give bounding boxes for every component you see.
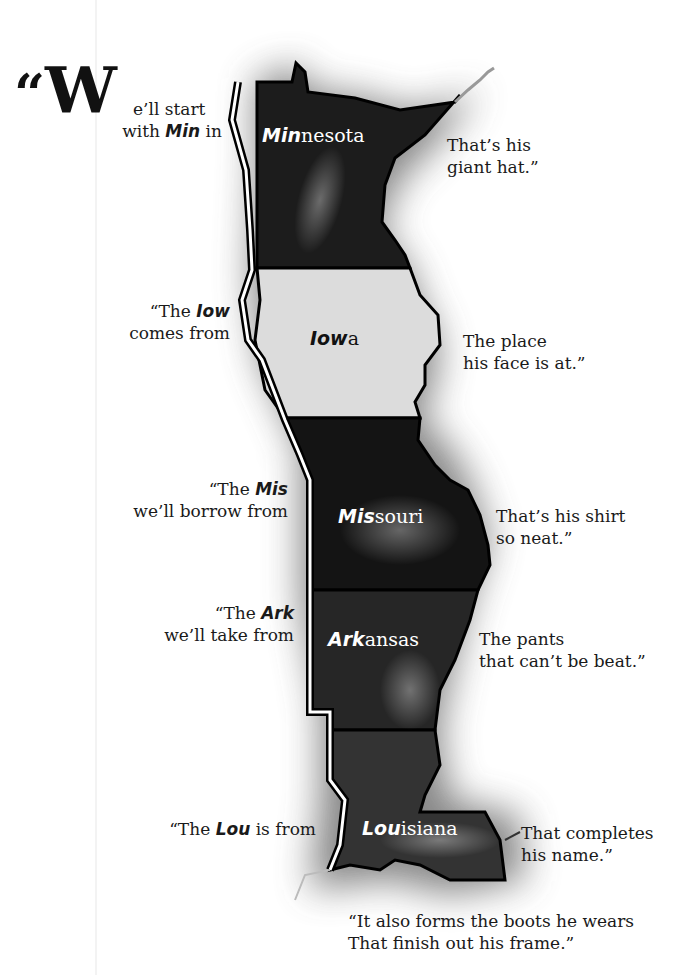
right-verse-arkansas: The pantsthat can’t be beat.” xyxy=(479,628,646,672)
intro-line-2: with Min in xyxy=(100,120,222,142)
left-verse-louisiana: “The Lou is from xyxy=(100,818,316,840)
right-verse-minnesota: That’s hisgiant hat.” xyxy=(447,134,539,178)
left-verse-iowa: “The Iow comes from xyxy=(100,300,230,344)
label-iowa: Iowa xyxy=(310,327,359,349)
open-quote: “ xyxy=(14,62,45,126)
label-arkansas: Arkansas xyxy=(328,628,419,650)
intro-line-1: e’ll start xyxy=(133,98,205,120)
label-louisiana: Louisiana xyxy=(362,817,457,839)
left-verse-missouri: “The Mis we’ll borrow from xyxy=(100,478,288,522)
drop-cap-letter: W xyxy=(45,53,117,128)
right-verse-missouri: That’s his shirtso neat.” xyxy=(496,505,625,549)
intro-bold-min: Min xyxy=(165,121,200,141)
right-verse-louisiana: That completeshis name.” xyxy=(521,822,654,866)
state-louisiana-shape xyxy=(330,730,505,880)
closing-verse: “It also forms the boots he wearsThat fi… xyxy=(348,910,634,954)
lake-edge xyxy=(455,68,494,102)
state-minnesota-shape xyxy=(257,63,460,268)
right-verse-iowa: The placehis face is at.” xyxy=(463,330,586,374)
label-minnesota: Minnesota xyxy=(262,124,365,146)
left-verse-arkansas: “The Ark we’ll take from xyxy=(100,602,294,646)
drop-cap: “W xyxy=(14,64,117,121)
label-missouri: Missouri xyxy=(338,505,423,527)
